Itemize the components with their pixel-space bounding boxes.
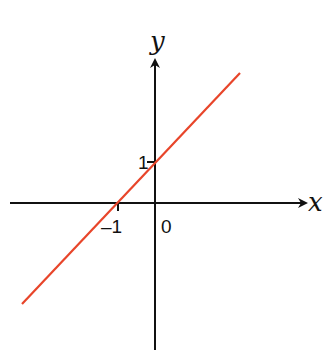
graph: y x –1 0 1 — [0, 0, 329, 352]
x-axis-label: x — [308, 187, 323, 217]
y-axis-label: y — [149, 26, 165, 56]
line-series — [22, 73, 240, 304]
origin-label: 0 — [161, 216, 172, 237]
y-tick-label-1: 1 — [138, 152, 149, 173]
x-tick-label-neg1: –1 — [101, 216, 122, 237]
